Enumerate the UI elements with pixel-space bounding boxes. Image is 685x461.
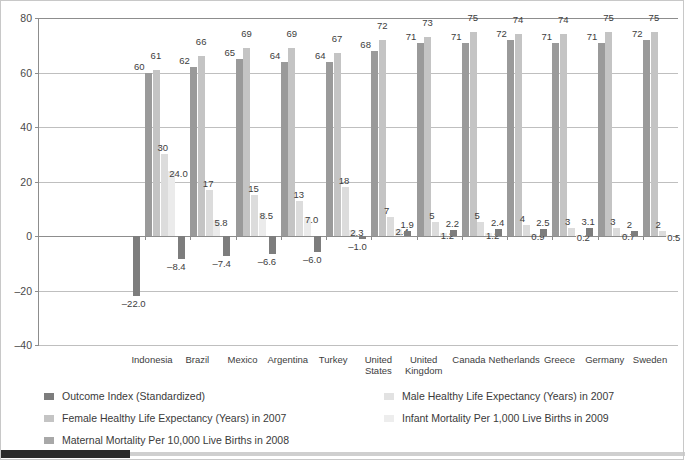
bar-value-label: 0.5 xyxy=(667,233,680,243)
x-axis-category-label: Sweden xyxy=(619,354,681,365)
bar xyxy=(643,40,650,236)
legend-swatch xyxy=(44,437,54,444)
plot-region: 806040200–20–4060613024.0–22.0Indonesia6… xyxy=(38,18,678,345)
legend-swatch xyxy=(44,393,54,400)
legend-item[interactable]: Male Healthy Life Expectancy (Years) in … xyxy=(384,390,614,402)
legend-label: Infant Mortality Per 1,000 Live Births i… xyxy=(402,412,609,424)
bar xyxy=(659,231,666,236)
bar-group: 727520.52 xyxy=(39,18,678,345)
legend-label: Female Healthy Life Expectancy (Years) i… xyxy=(62,412,286,424)
y-axis-tick-mark xyxy=(35,345,39,346)
bar-value-label: 2 xyxy=(656,220,661,230)
legend-swatch xyxy=(384,393,394,400)
footer-tab xyxy=(0,450,130,458)
legend-item[interactable]: Outcome Index (Standardized) xyxy=(44,390,205,402)
legend-item[interactable]: Infant Mortality Per 1,000 Live Births i… xyxy=(384,412,609,424)
bar-value-label: 75 xyxy=(649,13,660,23)
gridline--40 xyxy=(39,345,678,346)
x-axis-tick-mark xyxy=(643,236,644,240)
legend-swatch xyxy=(44,415,54,422)
legend-item[interactable]: Female Healthy Life Expectancy (Years) i… xyxy=(44,412,286,424)
bar xyxy=(651,32,658,236)
legend-label: Maternal Mortality Per 10,000 Live Birth… xyxy=(62,434,289,446)
legend-item[interactable]: Maternal Mortality Per 10,000 Live Birth… xyxy=(44,434,289,446)
bar xyxy=(631,231,638,236)
bar-value-label: 72 xyxy=(632,29,643,39)
chart-legend: Outcome Index (Standardized)Female Healt… xyxy=(44,390,644,440)
bar-value-label: 2 xyxy=(627,220,632,230)
legend-label: Male Healthy Life Expectancy (Years) in … xyxy=(402,390,614,402)
legend-swatch xyxy=(384,415,394,422)
chart-area: 806040200–20–4060613024.0–22.0Indonesia6… xyxy=(0,0,685,380)
legend-label: Outcome Index (Standardized) xyxy=(62,390,205,402)
